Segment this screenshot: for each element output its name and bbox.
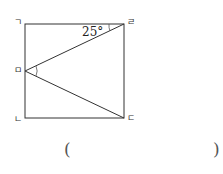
vertex-label-top-left: ㄱ	[14, 18, 22, 27]
answer-open-paren: (	[64, 141, 71, 158]
angle-arc-m	[36, 66, 37, 76]
square	[25, 24, 124, 118]
geometry-figure: 25°	[0, 0, 223, 174]
segment-m-d	[25, 71, 124, 118]
vertex-label-top-right: ㄹ	[127, 18, 135, 27]
angle-arc-r	[109, 24, 110, 31]
vertex-label-bottom-right: ㄷ	[127, 114, 135, 123]
answer-close-paren: )	[213, 141, 220, 158]
segment-m-r	[25, 24, 124, 71]
vertex-label-left-mid: ㅁ	[14, 66, 22, 75]
vertex-label-bottom-left: ㄴ	[14, 115, 22, 124]
angle-label: 25°	[82, 25, 103, 39]
